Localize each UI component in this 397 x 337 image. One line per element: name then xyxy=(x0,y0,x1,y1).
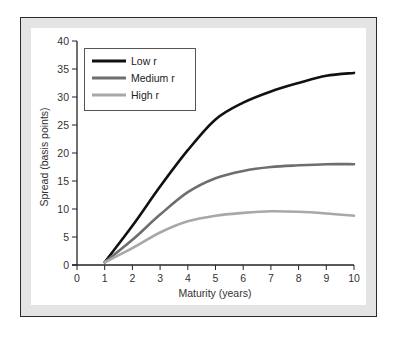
legend-label: Low r xyxy=(131,55,157,67)
y-tick-label: 25 xyxy=(57,119,69,131)
x-tick-label: 2 xyxy=(129,272,135,284)
legend: Low rMedium rHigh r xyxy=(85,49,196,111)
x-axis-title: Maturity (years) xyxy=(179,287,252,299)
series-line-high-r xyxy=(105,211,354,262)
legend-label: High r xyxy=(131,89,160,101)
x-tick-label: 4 xyxy=(185,272,191,284)
y-tick-label: 35 xyxy=(57,63,69,75)
x-tick-label: 3 xyxy=(157,272,163,284)
y-tick-label: 10 xyxy=(57,203,69,215)
legend-label: Medium r xyxy=(131,72,175,84)
y-tick-label: 30 xyxy=(57,91,69,103)
y-tick-label: 0 xyxy=(63,259,69,271)
x-tick-label: 7 xyxy=(268,272,274,284)
y-axis-title: Spread (basis points) xyxy=(38,107,50,206)
x-tick-label: 8 xyxy=(296,272,302,284)
x-tick-label: 5 xyxy=(213,272,219,284)
x-tick-label: 1 xyxy=(102,272,108,284)
line-chart: 0510152025303540012345678910 Low rMedium… xyxy=(0,0,397,337)
x-tick-label: 0 xyxy=(74,272,80,284)
x-tick-label: 6 xyxy=(240,272,246,284)
x-tick-label: 10 xyxy=(348,272,360,284)
y-tick-label: 15 xyxy=(57,175,69,187)
y-tick-label: 20 xyxy=(57,147,69,159)
x-tick-label: 9 xyxy=(323,272,329,284)
y-tick-label: 5 xyxy=(63,231,69,243)
y-tick-label: 40 xyxy=(57,35,69,47)
